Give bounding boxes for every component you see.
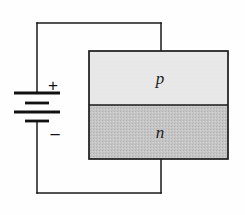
battery-negative-terminal-label: − [47,125,63,144]
battery-symbol [14,93,60,121]
pn-junction-circuit-diagram: p n + − [0,0,245,215]
battery-positive-terminal-label: + [45,77,61,94]
p-region-label: p [140,70,180,87]
n-region-label: n [140,124,180,141]
semiconductor-block [89,51,228,159]
circuit-schematic [0,0,245,215]
